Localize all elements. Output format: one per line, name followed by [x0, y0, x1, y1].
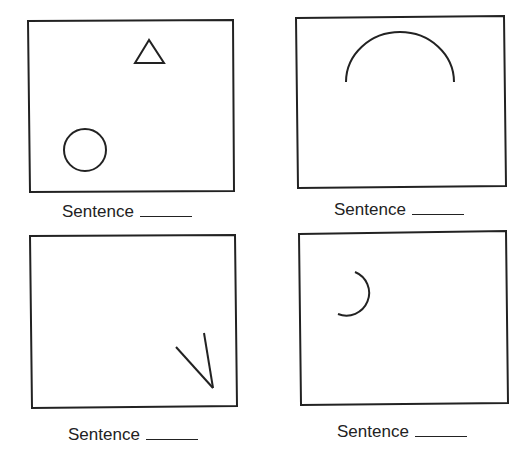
panel-1 — [28, 20, 234, 192]
triangle-shape — [135, 40, 164, 63]
panel-2-caption: Sentence — [334, 200, 464, 220]
semicircle-arc-shape — [346, 32, 454, 82]
panel-3 — [30, 235, 237, 408]
answer-blank[interactable] — [140, 215, 192, 217]
panel-4-frame — [299, 231, 508, 405]
answer-blank[interactable] — [412, 213, 464, 215]
panel-2 — [296, 16, 506, 188]
small-arc-shape — [338, 272, 369, 316]
answer-blank[interactable] — [415, 435, 467, 437]
answer-blank[interactable] — [146, 438, 198, 440]
figure-canvas — [0, 0, 528, 463]
panel-3-caption: Sentence — [68, 425, 198, 445]
panel-1-caption: Sentence — [62, 202, 192, 222]
caption-label: Sentence — [68, 425, 140, 444]
circle-shape — [64, 129, 106, 171]
panel-1-frame — [28, 20, 234, 192]
panel-3-frame — [30, 235, 237, 408]
caption-label: Sentence — [62, 202, 134, 221]
panel-2-frame — [296, 16, 506, 188]
panel-4 — [299, 231, 508, 405]
panel-4-caption: Sentence — [337, 422, 467, 442]
caption-label: Sentence — [334, 200, 406, 219]
caption-label: Sentence — [337, 422, 409, 441]
